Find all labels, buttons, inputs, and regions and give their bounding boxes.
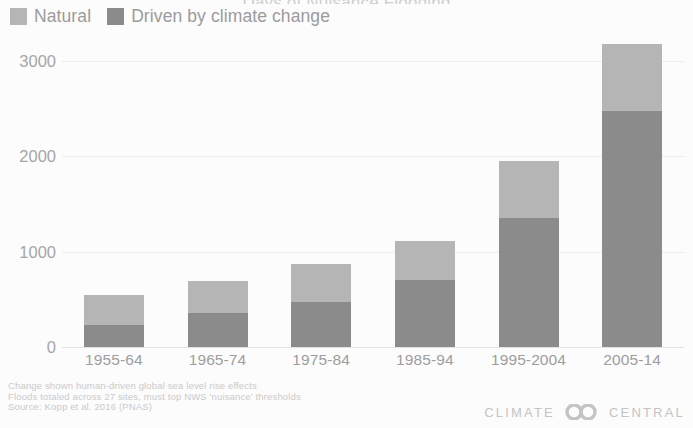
logo-text-left: CLIMATE — [484, 405, 555, 420]
gridline-3000 — [62, 61, 684, 62]
footnote-line-3: Source: Kopp et al. 2016 (PNAS) — [8, 402, 301, 413]
bar-1955-64[interactable] — [84, 295, 144, 347]
y-axis-tick-3000: 3000 — [19, 53, 56, 70]
bar-segment-driven — [84, 325, 144, 347]
bar-segment-natural — [395, 241, 455, 280]
chart-footnotes: Change shown human-driven global sea lev… — [8, 381, 301, 413]
y-axis-tick-2000: 2000 — [19, 148, 56, 165]
bar-segment-driven — [499, 218, 559, 347]
gridline-1000 — [62, 252, 684, 253]
x-axis-baseline — [62, 347, 684, 348]
bar-segment-natural — [499, 161, 559, 218]
bar-segment-natural — [84, 295, 144, 325]
bar-segment-driven — [395, 280, 455, 347]
bar-segment-driven — [602, 111, 662, 347]
bar-1995-2004[interactable] — [499, 161, 559, 347]
bar-1985-94[interactable] — [395, 241, 455, 347]
x-axis-tick-1955-64: 1955-64 — [54, 351, 174, 369]
x-axis-tick-1975-84: 1975-84 — [261, 351, 381, 369]
bar-segment-driven — [188, 313, 248, 347]
climate-central-logo: CLIMATE CENTRAL — [484, 404, 685, 420]
y-axis-tick-1000: 1000 — [19, 243, 56, 260]
two-overlapping-circles-icon — [561, 404, 603, 420]
x-axis-tick-1995-2004: 1995-2004 — [469, 351, 589, 369]
chart-plot-area: 0100020003000 1955-641965-741975-841985-… — [0, 0, 693, 428]
x-axis-tick-2005-14: 2005-14 — [572, 351, 692, 369]
bar-1965-74[interactable] — [188, 281, 248, 347]
gridline-2000 — [62, 156, 684, 157]
bar-segment-natural — [291, 264, 351, 302]
bar-segment-driven — [291, 302, 351, 347]
bar-2005-14[interactable] — [602, 44, 662, 347]
x-axis-tick-1965-74: 1965-74 — [158, 351, 278, 369]
x-axis-tick-1985-94: 1985-94 — [365, 351, 485, 369]
bar-segment-natural — [602, 44, 662, 111]
logo-text-right: CENTRAL — [609, 405, 685, 420]
bar-1975-84[interactable] — [291, 264, 351, 347]
bar-segment-natural — [188, 281, 248, 313]
footnote-line-1: Change shown human-driven global sea lev… — [8, 381, 301, 392]
